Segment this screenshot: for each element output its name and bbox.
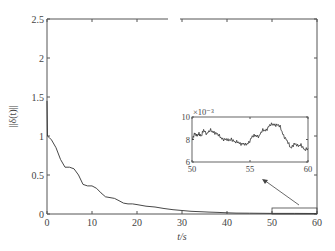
y-tick-label: 0: [39, 209, 44, 220]
y-tick-label: 0.5: [32, 170, 45, 181]
inset-y-tick-label: 8: [186, 135, 190, 145]
arrow-line: [264, 180, 299, 205]
y-axis-title: ||δ(t)||: [7, 105, 19, 127]
inset-multiplier: ×10⁻³: [193, 107, 214, 117]
x-tick-label: 40: [222, 217, 232, 228]
inset-y-tick-label: 10: [182, 112, 191, 122]
inset-x-tick-label: 60: [304, 164, 313, 174]
chart-root: 010203040506000.511.522.5t/s||δ(t)||5055…: [0, 0, 335, 251]
x-tick-label: 60: [312, 217, 322, 228]
x-tick-label: 30: [177, 217, 187, 228]
x-axis-title: t/s: [177, 231, 187, 242]
y-tick-label: 2.5: [32, 14, 45, 25]
y-tick-label: 1: [39, 131, 44, 142]
line-chart: 010203040506000.511.522.5t/s||δ(t)||5055…: [0, 0, 335, 251]
arrow-head-icon: [262, 179, 268, 184]
y-tick-label: 1.5: [32, 92, 45, 103]
x-tick-label: 0: [45, 217, 50, 228]
inset-x-tick-label: 55: [246, 164, 255, 174]
x-tick-label: 20: [132, 217, 142, 228]
inset-y-tick-label: 6: [186, 157, 190, 167]
x-tick-label: 50: [267, 217, 277, 228]
y-tick-label: 2: [39, 53, 44, 64]
x-tick-label: 10: [87, 217, 97, 228]
